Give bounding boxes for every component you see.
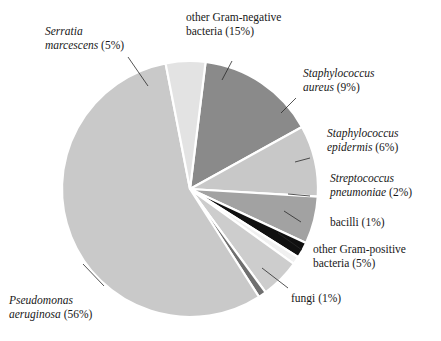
slice-label-other-gram-positive: other Gram-positive bacteria (5%) (313, 243, 406, 270)
slice-label-species: marcescens (45, 39, 98, 51)
slice-label-fungi: fungi (1%) (291, 292, 341, 306)
slice-label-line2: aureus (9%) (303, 81, 375, 95)
slice-label-percent: (2%) (386, 186, 412, 198)
slice-label-staphylococcus-epidermis: Staphylococcus epidermis (6%) (327, 127, 399, 154)
slice-label-percent: (6%) (372, 141, 398, 153)
slice-label-line2: bacteria (15%) (186, 25, 281, 39)
slice-label-line1: Pseudomonas (9, 294, 73, 306)
slice-label-species: aureus (303, 81, 334, 93)
slice-label-percent: (9%) (334, 81, 360, 93)
slice-label-line1: bacilli (1%) (330, 216, 385, 228)
slice-label-pseudomonas-aeruginosa: Pseudomonas aeruginosa (56%) (9, 294, 92, 321)
slice-label-line1: fungi (1%) (291, 292, 341, 304)
slice-label-staphylococcus-aureus: Staphylococcus aureus (9%) (303, 67, 375, 94)
slice-label-species: aeruginosa (9, 308, 61, 320)
slice-label-percent: (56%) (61, 308, 93, 320)
slice-label-bacilli: bacilli (1%) (330, 216, 385, 230)
pie-chart-figure: other Gram-negative bacteria (15%) Serra… (0, 0, 441, 341)
slice-label-line2: marcescens (5%) (45, 39, 124, 53)
slice-label-line2: pneumoniae (2%) (330, 186, 412, 200)
slice-label-other-gram-negative: other Gram-negative bacteria (15%) (186, 11, 281, 38)
slice-label-percent: (5%) (98, 39, 124, 51)
slice-label-line2: epidermis (6%) (327, 141, 399, 155)
slice-label-line2: bacteria (5%) (313, 257, 406, 271)
slice-label-line1: other Gram-positive (313, 243, 406, 255)
slice-label-species: pneumoniae (330, 186, 386, 198)
slice-label-line1: Serratia (45, 25, 83, 37)
slice-label-line1: Streptococcus (330, 172, 394, 184)
slice-label-streptococcus-pneumoniae: Streptococcus pneumoniae (2%) (330, 172, 412, 199)
slice-label-species: epidermis (327, 141, 372, 153)
slice-label-line1: other Gram-negative (186, 11, 281, 23)
pie-slices-group (62, 61, 318, 317)
slice-label-line1: Staphylococcus (327, 127, 399, 139)
slice-label-line1: Staphylococcus (303, 67, 375, 79)
slice-label-line2: aeruginosa (56%) (9, 308, 92, 322)
slice-label-serratia-marcescens: Serratia marcescens (5%) (45, 25, 124, 52)
